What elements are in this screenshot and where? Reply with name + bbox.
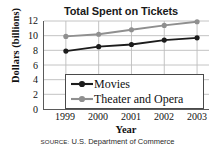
legend-item-movies: Movies [70,76,199,91]
data-point [63,34,68,39]
legend-marker-movies-icon [70,78,94,90]
source-label: Source: [41,138,70,145]
data-point [129,42,134,47]
data-point [162,37,167,42]
data-point [96,32,101,37]
legend-marker-theater-and-opera-icon [70,93,94,105]
data-point [194,19,199,24]
source-text: U.S. Department of Commerce [72,137,175,146]
source-note: Source: U.S. Department of Commerce [0,137,215,146]
legend-label-theater-and-opera: Theater and Opera [94,93,183,105]
legend: Movies Theater and Opera [65,74,204,109]
chart-title: Total Spent on Tickets [30,5,212,17]
y-axis-tick-label: 0 [20,105,38,115]
chart-figure: Total Spent on Tickets Dollars (billions… [0,0,215,150]
x-axis-tick-label: 2000 [81,111,115,122]
x-axis-tick-label: 2001 [114,111,148,122]
y-axis-tick-label: 12 [20,16,38,26]
y-axis-tick-label: 6 [20,61,38,71]
x-axis-tick-label: 2002 [147,111,181,122]
legend-item-theater-and-opera: Theater and Opera [70,91,199,106]
y-axis-tick-label: 8 [20,46,38,56]
y-axis-tick-labels: 024681012 [20,0,38,150]
x-axis-tick-labels: 19992000200120022003 [43,111,209,125]
data-point [63,48,68,53]
y-axis-tick-label: 4 [20,75,38,85]
legend-label-movies: Movies [94,78,130,90]
x-axis-tick-label: 1999 [48,111,82,122]
x-axis-tick-label: 2003 [180,111,214,122]
data-point [129,27,134,32]
x-axis-title: Year [43,124,209,135]
data-point [162,23,167,28]
y-axis-tick-label: 2 [20,90,38,100]
data-point [96,44,101,49]
y-axis-tick-label: 10 [20,31,38,41]
data-point [194,35,199,40]
y-axis-title: Dollars (billions) [10,1,21,91]
